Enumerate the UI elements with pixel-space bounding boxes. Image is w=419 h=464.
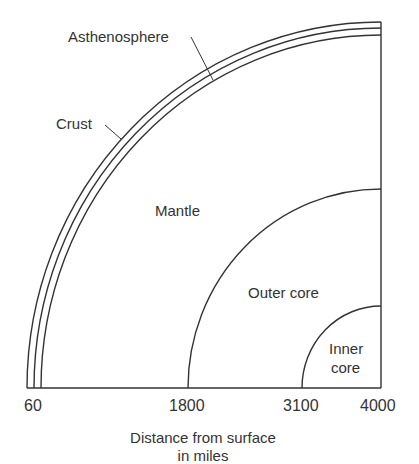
tick-1800: 1800 [169,398,205,414]
axis-title-line2: in miles [103,446,303,464]
tick-4000: 4000 [360,398,396,414]
crust-outer-arc [27,22,381,388]
crust-leader [105,125,121,139]
crust-inner-arc [34,28,381,388]
inner-core-label-line2: core [331,360,360,375]
inner-core-label-line1: Inner [329,341,363,356]
asthenosphere-inner-arc [41,35,381,388]
axis-title-line1: Distance from surface [103,428,303,447]
crust-label: Crust [56,116,92,131]
tick-60: 60 [24,398,42,414]
earth-layers-svg [0,0,419,464]
asthenosphere-label: Asthenosphere [68,29,169,44]
outer-core-label: Outer core [248,285,319,300]
tick-3100: 3100 [283,398,319,414]
asthenosphere-leader [191,37,213,80]
mantle-label: Mantle [155,203,200,218]
